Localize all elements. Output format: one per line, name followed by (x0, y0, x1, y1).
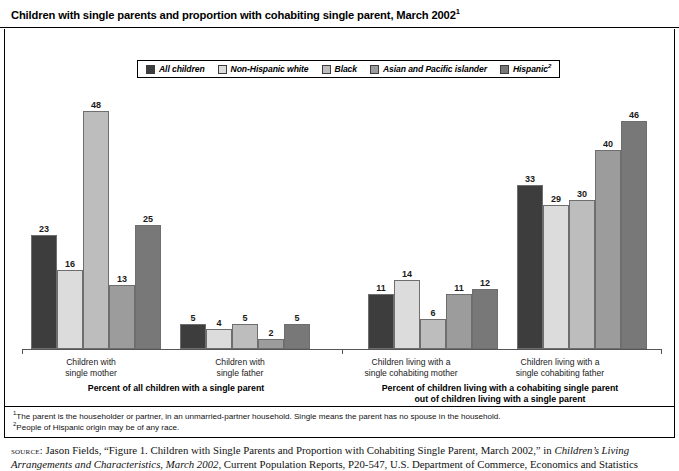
bar-group-single-father: 5 4 5 2 5 (180, 86, 311, 349)
legend-swatch-icon-all-children (146, 65, 155, 74)
section-label-cohabiting-line2: out of children living with a single par… (345, 394, 655, 405)
bar-single-mother-hispanic[interactable]: 25 (135, 225, 161, 349)
bar-value-single-mother-non-hispanic-white: 16 (65, 260, 75, 269)
axis-tick-right (661, 350, 662, 354)
bar-cohabiting-mother-asian-and-pacific-islander[interactable]: 11 (446, 294, 472, 349)
bar-cohabiting-father-all-children[interactable]: 33 (517, 185, 543, 349)
axis-tick-left (22, 350, 23, 354)
bar-cohabiting-father-hispanic[interactable]: 46 (621, 121, 647, 349)
legend-item-non-hispanic-white[interactable]: Non-Hispanic white (218, 64, 309, 74)
bar-cohabiting-father-asian-and-pacific-islander[interactable]: 40 (595, 150, 621, 349)
legend-label-hispanic: Hispanic2 (513, 64, 551, 74)
category-label-single-father: Children with single father (180, 357, 300, 378)
legend-swatch-icon-non-hispanic-white (218, 65, 227, 74)
category-label-single-father-line2: single father (180, 368, 300, 379)
bar-single-father-hispanic[interactable]: 5 (284, 324, 310, 349)
category-label-cohabiting-father: Children living with a single cohabiting… (500, 357, 620, 378)
bar-group-single-mother: 23 16 48 13 25 (31, 86, 162, 349)
bar-value-single-mother-asian-and-pacific-islander: 13 (117, 275, 127, 284)
legend-swatch-icon-asian-and-pacific-islander (370, 65, 379, 74)
bar-value-cohabiting-mother-hispanic: 12 (480, 279, 490, 288)
bar-value-single-father-non-hispanic-white: 4 (216, 319, 221, 328)
bar-single-father-asian-and-pacific-islander[interactable]: 2 (258, 339, 284, 349)
bar-single-mother-asian-and-pacific-islander[interactable]: 13 (109, 285, 135, 349)
title-band: Children with single parents and proport… (0, 0, 679, 28)
category-label-cohabiting-mother: Children living with a single cohabiting… (351, 357, 471, 378)
legend-item-hispanic[interactable]: Hispanic2 (500, 64, 551, 74)
legend-item-asian-and-pacific-islander[interactable]: Asian and Pacific islander (370, 64, 487, 74)
plot-area: 23 16 48 13 25 5 4 5 2 5 11 14 6 11 12 3… (22, 86, 662, 350)
category-label-cohabiting-father-line1: Children living with a (500, 357, 620, 368)
bar-single-mother-black[interactable]: 48 (83, 111, 109, 349)
legend-swatch-icon-black (322, 65, 331, 74)
bar-value-cohabiting-father-asian-and-pacific-islander: 40 (603, 140, 613, 149)
category-label-single-mother-line1: Children with (31, 357, 151, 368)
footnote-band: 1The parent is the householder or partne… (4, 406, 675, 438)
legend-label-asian-and-pacific-islander: Asian and Pacific islander (383, 64, 487, 74)
bar-value-single-mother-hispanic: 25 (143, 215, 153, 224)
source-part-1: Jason Fields, “Figure 1. Children with S… (43, 444, 555, 456)
legend-label-hispanic-text: Hispanic (513, 64, 548, 74)
bar-cohabiting-mother-hispanic[interactable]: 12 (472, 289, 498, 349)
chart-legend: All children Non-Hispanic white Black As… (137, 60, 560, 78)
footnote-1-text: The parent is the householder or partner… (16, 412, 500, 421)
category-label-cohabiting-mother-line2: single cohabiting mother (351, 368, 471, 379)
bar-value-cohabiting-mother-black: 6 (430, 309, 435, 318)
source-part-2: , Current Population Reports, P20-547, U… (218, 458, 638, 470)
title-footnote-marker: 1 (456, 7, 460, 16)
bar-single-father-non-hispanic-white[interactable]: 4 (206, 329, 232, 349)
legend-item-all-children[interactable]: All children (146, 64, 205, 74)
bar-value-single-mother-all-children: 23 (39, 225, 49, 234)
bar-value-single-father-asian-and-pacific-islander: 2 (268, 329, 273, 338)
section-label-cohabiting-line1: Percent of children living with a cohabi… (345, 383, 655, 394)
bar-single-mother-non-hispanic-white[interactable]: 16 (57, 270, 83, 349)
bar-value-single-father-black: 5 (242, 314, 247, 323)
bar-value-cohabiting-father-non-hispanic-white: 29 (551, 195, 561, 204)
page-title-text: Children with single parents and proport… (11, 9, 456, 21)
bar-cohabiting-father-black[interactable]: 30 (569, 200, 595, 349)
section-label-all-children: Percent of all children with a single pa… (26, 383, 326, 394)
bar-cohabiting-father-non-hispanic-white[interactable]: 29 (543, 205, 569, 349)
bar-single-mother-all-children[interactable]: 23 (31, 235, 57, 349)
bar-value-cohabiting-father-black: 30 (577, 190, 587, 199)
axis-tick-mid (342, 350, 343, 354)
bar-single-father-all-children[interactable]: 5 (180, 324, 206, 349)
bar-value-cohabiting-mother-non-hispanic-white: 14 (402, 270, 412, 279)
footnote-1: 1The parent is the householder or partne… (13, 412, 501, 422)
legend-label-all-children: All children (159, 64, 205, 74)
category-label-single-mother: Children with single mother (31, 357, 151, 378)
bar-group-cohabiting-father: 33 29 30 40 46 (517, 86, 648, 349)
bar-cohabiting-mother-all-children[interactable]: 11 (368, 294, 394, 349)
bar-value-cohabiting-mother-asian-and-pacific-islander: 11 (454, 284, 464, 293)
legend-label-black: Black (335, 64, 357, 74)
category-label-single-mother-line2: single mother (31, 368, 151, 379)
bar-value-cohabiting-father-all-children: 33 (525, 175, 535, 184)
legend-swatch-icon-hispanic (500, 65, 509, 74)
section-label-cohabiting: Percent of children living with a cohabi… (345, 383, 655, 405)
bar-value-single-mother-black: 48 (91, 101, 101, 110)
section-label-all-children-line1: Percent of all children with a single pa… (26, 383, 326, 394)
category-label-cohabiting-mother-line1: Children living with a (351, 357, 471, 368)
category-label-cohabiting-father-line2: single cohabiting father (500, 368, 620, 379)
bar-value-cohabiting-father-hispanic: 46 (629, 111, 639, 120)
source-kicker: source: (11, 445, 43, 456)
source-note: source: Jason Fields, “Figure 1. Childre… (11, 444, 671, 471)
footnote-2-text: People of Hispanic origin may be of any … (16, 423, 179, 432)
bar-cohabiting-mother-non-hispanic-white[interactable]: 14 (394, 280, 420, 349)
footnote-2: 2People of Hispanic origin may be of any… (13, 423, 179, 433)
bar-single-father-black[interactable]: 5 (232, 324, 258, 349)
legend-hispanic-footnote-marker: 2 (548, 63, 551, 69)
bar-value-single-father-hispanic: 5 (294, 314, 299, 323)
bar-group-cohabiting-mother: 11 14 6 11 12 (368, 86, 499, 349)
bar-cohabiting-mother-black[interactable]: 6 (420, 319, 446, 349)
category-label-single-father-line1: Children with (180, 357, 300, 368)
legend-label-non-hispanic-white: Non-Hispanic white (231, 64, 309, 74)
page-title: Children with single parents and proport… (11, 9, 460, 21)
legend-item-black[interactable]: Black (322, 64, 357, 74)
bar-value-single-father-all-children: 5 (190, 314, 195, 323)
bar-value-cohabiting-mother-all-children: 11 (376, 284, 386, 293)
